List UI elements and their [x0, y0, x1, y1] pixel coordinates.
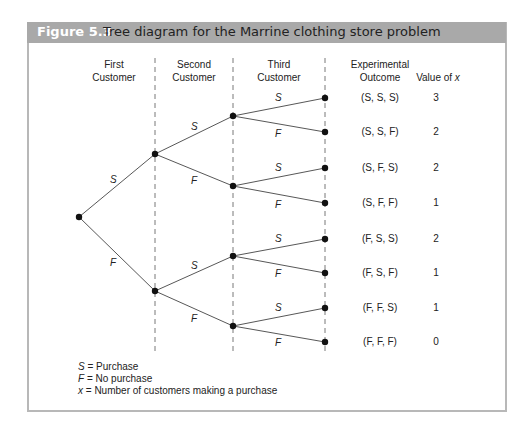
value-of-x: 2 — [426, 233, 446, 244]
outcome-label: (S, F, F) — [340, 197, 420, 208]
branch-label: S — [275, 233, 282, 244]
value-of-x: 1 — [426, 197, 446, 208]
leaf-node — [322, 165, 328, 171]
legend-text: = Number of customers making a purchase — [83, 385, 277, 396]
outcome-label: (F, F, S) — [340, 302, 420, 313]
value-of-x: 0 — [426, 336, 446, 347]
leaf-node — [322, 129, 328, 135]
leaf-node — [322, 200, 328, 206]
branch-label: F — [275, 199, 282, 210]
node — [152, 288, 158, 294]
legend-item: x = Number of customers making a purchas… — [78, 385, 277, 397]
tree-nodes — [76, 95, 328, 345]
leaf-node — [322, 236, 328, 242]
branch-label: S — [275, 302, 282, 313]
branch-label: F — [275, 128, 282, 139]
node — [152, 151, 158, 157]
value-of-x: 3 — [426, 92, 446, 103]
branch-label: S — [110, 174, 117, 185]
value-of-x: 1 — [426, 302, 446, 313]
leaf-node — [322, 270, 328, 276]
tree-branches — [79, 98, 325, 342]
branch-label: S — [191, 260, 198, 271]
node-root — [76, 214, 82, 220]
leaf-node — [322, 305, 328, 311]
node — [230, 253, 236, 259]
node — [230, 183, 236, 189]
leaf-node — [322, 339, 328, 345]
column-dividers — [155, 58, 325, 351]
branch-label: S — [275, 92, 282, 103]
outcome-label: (S, F, S) — [340, 162, 420, 173]
branch-label: F — [191, 175, 198, 186]
branch-label: S — [275, 162, 282, 173]
node — [230, 323, 236, 329]
outcome-label: (F, S, S) — [340, 233, 420, 244]
legend-text: = No purchase — [84, 373, 152, 384]
outcome-label: (S, S, F) — [340, 126, 420, 137]
outcome-label: (S, S, S) — [340, 92, 420, 103]
outcome-label: (F, F, F) — [340, 336, 420, 347]
value-of-x: 2 — [426, 162, 446, 173]
legend-symbol: S — [78, 361, 85, 372]
value-of-x: 2 — [426, 126, 446, 137]
leaf-node — [322, 95, 328, 101]
legend-text: = Purchase — [85, 361, 139, 372]
branch-label: F — [275, 337, 282, 348]
value-of-x: 1 — [426, 267, 446, 278]
node — [230, 113, 236, 119]
branch-label: S — [191, 121, 198, 132]
legend-item: S = Purchase — [78, 361, 277, 373]
branch-label: F — [191, 313, 198, 324]
branch-label: F — [110, 257, 117, 268]
outcome-label: (F, S, F) — [340, 267, 420, 278]
legend: S = Purchase F = No purchase x = Number … — [78, 361, 277, 397]
branch-label: F — [275, 268, 282, 279]
legend-item: F = No purchase — [78, 373, 277, 385]
